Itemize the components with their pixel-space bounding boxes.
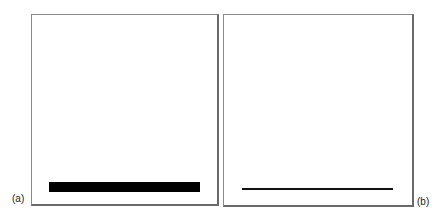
panel-a [31, 14, 219, 206]
panel-a-label: (a) [12, 193, 24, 204]
thick-bar [49, 182, 200, 192]
panel-b [223, 14, 414, 207]
panel-b-label: (b) [417, 196, 429, 207]
thin-line [242, 188, 393, 190]
